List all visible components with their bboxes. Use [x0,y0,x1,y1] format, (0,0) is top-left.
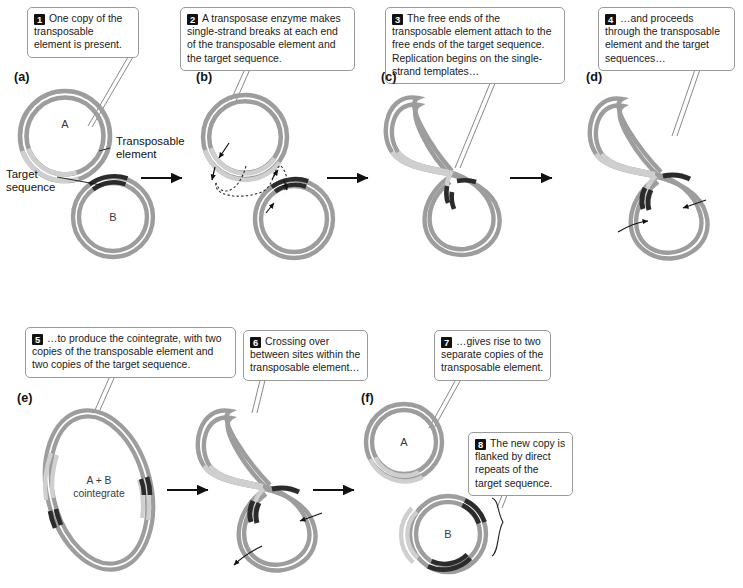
panel-label-e: (e) [17,391,32,405]
callout-7[interactable]: 7…gives rise to two separate copies of t… [434,330,551,381]
callout-6[interactable]: 6Crossing over between sites within the … [243,330,368,381]
plasmid-a-top-label: A [55,118,75,130]
transposable-element-label-line2: element [116,148,185,161]
panel-label-d: (d) [586,70,602,84]
callout-6-text: Crossing over between sites within the t… [250,336,360,373]
callout-6-number: 6 [250,337,261,348]
plasmid-a-bottom-label: A [394,436,414,448]
panel-label-b: (b) [196,70,212,84]
callout-1-number: 1 [34,14,45,25]
figure-eight-d [590,99,708,259]
target-seq-c-2 [457,180,476,182]
callout-5-number: 5 [32,334,43,345]
callout-3[interactable]: 3The free ends of the transposable eleme… [385,7,565,84]
cointegrate-label-line2: cointegrate [59,488,139,501]
figure-eight-crossover [198,411,322,571]
target-seq-c-1 [446,186,448,203]
cointegrate-label-line1: A + B [59,475,139,488]
target-sequence-label: Target sequence [6,168,55,195]
callout-4[interactable]: 4…and proceeds through the transposable … [598,7,735,71]
transposable-element-label-line1: Transposable [116,135,185,148]
callout-8[interactable]: 8The new copy is flanked by direct repea… [468,432,573,496]
figure-canvas: 1One copy of the transposable element is… [0,0,743,588]
callout-2[interactable]: 2A transposase enzyme makes single-stran… [180,7,355,71]
callout-2-number: 2 [187,14,198,25]
callout-1-text: One copy of the transposable element is … [34,13,122,50]
callout-4-number: 4 [605,14,616,25]
cointegrate-label: A + B cointegrate [59,475,139,500]
callout-3-number: 3 [392,14,403,25]
figure-eight-c [386,97,500,255]
panel-label-c: (c) [381,70,396,84]
callout-3-text: The free ends of the transposable elemen… [392,13,551,77]
target-seq-e-2 [50,511,55,528]
callout-4-text: …and proceeds through the transposable e… [605,13,720,64]
callout-1[interactable]: 1One copy of the transposable element is… [27,7,139,58]
callout-8-number: 8 [475,439,486,450]
transposable-element-label: Transposable element [116,135,185,162]
direct-repeats-brace [492,498,503,556]
callout-2-text: A transposase enzyme makes single-strand… [187,13,341,64]
target-sequence-label-line1: Target [6,168,55,181]
callout-8-text: The new copy is flanked by direct repeat… [475,438,565,489]
callout-7-text: …gives rise to two separate copies of th… [441,336,543,373]
target-sequence-label-line2: sequence [6,181,55,194]
callout-5[interactable]: 5…to produce the cointegrate, with two c… [25,327,236,378]
plasmid-a-ring-b [203,95,287,180]
callout-7-number: 7 [441,337,452,348]
callout-leader-1 [88,57,133,127]
callout-5-text: …to produce the cointegrate, with two co… [32,333,221,370]
panel-label-a: (a) [14,70,29,84]
plasmid-b-ring-b [255,179,333,258]
panel-label-f: (f) [361,391,374,405]
plasmid-b-top-label: B [103,211,123,223]
plasmid-b-bottom-label: B [438,528,458,540]
